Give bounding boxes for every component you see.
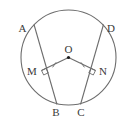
vertex-label-m: M: [27, 65, 37, 77]
vertex-label-d: D: [107, 22, 115, 34]
center-point-dot: [67, 56, 70, 59]
vertex-label-a: A: [19, 22, 27, 34]
vertex-label-o: O: [65, 43, 73, 55]
vertex-label-b: B: [52, 106, 59, 118]
circle-geometry-diagram: A D O M N B C: [0, 0, 121, 118]
vertex-label-n: N: [99, 65, 107, 77]
geometry-figure: A D O M N B C: [0, 0, 121, 118]
vertex-label-c: C: [77, 106, 84, 118]
